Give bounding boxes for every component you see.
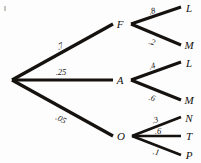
- tree-node-OP: P: [186, 150, 193, 161]
- tree-node-O: O: [117, 131, 125, 142]
- tree-node-F: F: [117, 19, 124, 30]
- tree-node-ON: N: [185, 113, 192, 124]
- tree-edge-A-M: [131, 80, 181, 100]
- scan-artifact-speck: [4, 6, 6, 11]
- tree-node-FM: M: [184, 40, 193, 51]
- edge-probability-e-root-A: .25: [56, 68, 67, 77]
- tree-edges-layer: [0, 0, 201, 163]
- tree-edge-A-L: [131, 62, 181, 80]
- tree-node-AM: M: [184, 95, 193, 106]
- tree-edge-F-L: [131, 7, 181, 24]
- probability-tree-diagram: FAOLMLMNTP.7.25.05.8.2.4.6.3.6.1: [0, 0, 201, 163]
- tree-node-OT: T: [186, 131, 192, 142]
- tree-node-FL: L: [186, 3, 192, 14]
- tree-node-AL: L: [186, 58, 192, 69]
- tree-node-A: A: [117, 75, 124, 86]
- tree-edge-F-M: [131, 24, 181, 45]
- tree-edge-root-O: [12, 80, 113, 136]
- edge-probability-e-O-T: .6: [155, 127, 161, 136]
